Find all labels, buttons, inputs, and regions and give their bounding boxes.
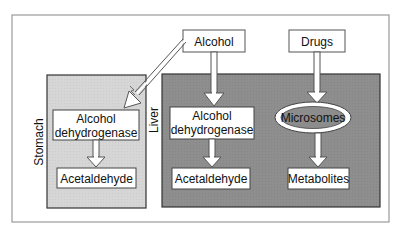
microsomes-label: Microsomes — [281, 111, 346, 125]
liver-label: Liver — [147, 107, 161, 133]
stomach-adh-box: Alcohol dehydrogenase — [53, 110, 139, 140]
stomach-adh-line1: Alcohol — [76, 112, 115, 126]
stomach-acetaldehyde-label: Acetaldehyde — [60, 172, 133, 186]
alcohol-metabolism-diagram: Stomach Liver Alcohol Drugs Alcohol — [0, 0, 401, 234]
drugs-source-label: Drugs — [301, 35, 333, 49]
liver-adh-line1: Alcohol — [192, 109, 231, 123]
drugs-source-box: Drugs — [289, 30, 345, 52]
liver-acetaldehyde-label: Acetaldehyde — [175, 172, 248, 186]
stomach-adh-line2: dehydrogenase — [55, 126, 138, 140]
alcohol-source-label: Alcohol — [194, 35, 233, 49]
liver-acetaldehyde-box: Acetaldehyde — [172, 168, 250, 189]
stomach-label: Stomach — [32, 118, 46, 165]
metabolites-label: Metabolites — [288, 172, 349, 186]
liver-adh-box: Alcohol dehydrogenase — [170, 107, 254, 139]
alcohol-source-box: Alcohol — [183, 30, 245, 52]
microsomes-ellipse: Microsomes — [275, 102, 351, 133]
metabolites-box: Metabolites — [288, 168, 349, 189]
stomach-acetaldehyde-box: Acetaldehyde — [57, 168, 136, 188]
liver-adh-line2: dehydrogenase — [171, 123, 254, 137]
